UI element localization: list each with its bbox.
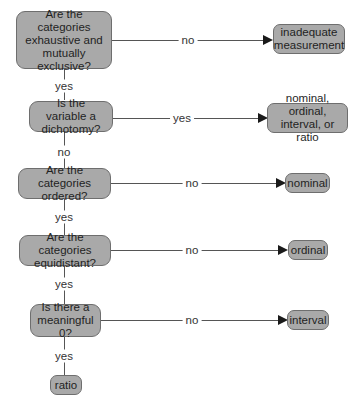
edge-label: yes bbox=[52, 80, 76, 93]
edge-label: yes bbox=[52, 350, 76, 363]
node-label: inadequate measurement bbox=[274, 26, 344, 52]
outcome-node-ordinal: ordinal bbox=[288, 240, 328, 260]
edge-label: yes bbox=[170, 112, 194, 125]
outcome-node-interval: interval bbox=[287, 310, 329, 330]
arrow-head-icon bbox=[278, 245, 288, 255]
node-label: Is there a meaningful 0? bbox=[37, 301, 94, 340]
edge-label: yes bbox=[52, 211, 76, 224]
edge-label: no bbox=[55, 146, 74, 159]
question-node-exhaustive: Are the categories exhaustive and mutual… bbox=[16, 11, 112, 69]
edge-label: no bbox=[183, 244, 202, 257]
edge-label: no bbox=[183, 314, 202, 327]
edge-label: no bbox=[179, 34, 198, 47]
arrow-head-icon bbox=[263, 35, 273, 45]
question-node-dichotomy: Is the variable a dichotomy? bbox=[29, 101, 113, 132]
node-label: Are the categories equidistant? bbox=[24, 231, 106, 270]
node-label: ratio bbox=[55, 379, 77, 392]
question-node-ordered: Are the categories ordered? bbox=[18, 168, 111, 199]
question-node-equidistant: Are the categories equidistant? bbox=[19, 235, 111, 266]
node-label: nominal, ordinal, interval, or ratio bbox=[270, 92, 345, 144]
node-label: nominal bbox=[287, 177, 327, 190]
node-label: interval bbox=[289, 314, 326, 327]
node-label: ordinal bbox=[291, 244, 326, 257]
node-label: Are the categories ordered? bbox=[23, 164, 106, 203]
outcome-node-any-level: nominal, ordinal, interval, or ratio bbox=[267, 103, 348, 133]
outcome-node-inadequate: inadequate measurement bbox=[273, 24, 345, 54]
outcome-node-nominal: nominal bbox=[285, 173, 330, 193]
node-label: Is the variable a dichotomy? bbox=[36, 97, 106, 136]
node-label: Are the categories exhaustive and mutual… bbox=[21, 8, 107, 73]
outcome-node-ratio: ratio bbox=[50, 375, 82, 395]
question-node-meaningful-zero: Is there a meaningful 0? bbox=[30, 304, 101, 337]
edge-label: yes bbox=[52, 278, 76, 291]
edge-label: no bbox=[183, 177, 202, 190]
